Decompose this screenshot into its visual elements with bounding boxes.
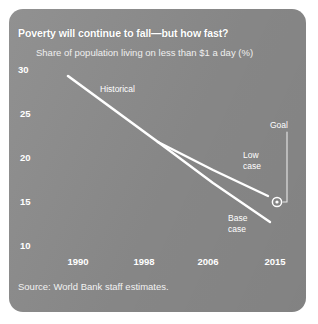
y-tick-20: 20	[20, 152, 31, 163]
annotation-historical: Historical	[100, 84, 135, 95]
annotation-goal: Goal	[270, 120, 288, 131]
x-tick-1990: 1990	[56, 256, 100, 267]
chart-title: Poverty will continue to fall—but how fa…	[18, 27, 228, 39]
y-tick-15: 15	[20, 196, 31, 207]
chart-page: Poverty will continue to fall—but how fa…	[0, 0, 318, 324]
x-tick-2015: 2015	[253, 256, 297, 267]
x-tick-1998: 1998	[122, 256, 166, 267]
annotation-low-case-line2: case	[243, 161, 261, 172]
chart-subtitle: Share of population living on less than …	[36, 47, 253, 58]
y-tick-25: 25	[20, 108, 31, 119]
y-tick-30: 30	[18, 64, 29, 75]
chart-source: Source: World Bank staff estimates.	[18, 281, 169, 292]
y-tick-10: 10	[20, 240, 31, 251]
x-tick-2006: 2006	[186, 256, 230, 267]
annotation-base-case-line1: Base	[228, 213, 247, 224]
annotation-base-case-line2: case	[228, 224, 246, 235]
annotation-low-case-line1: Low	[243, 150, 259, 161]
